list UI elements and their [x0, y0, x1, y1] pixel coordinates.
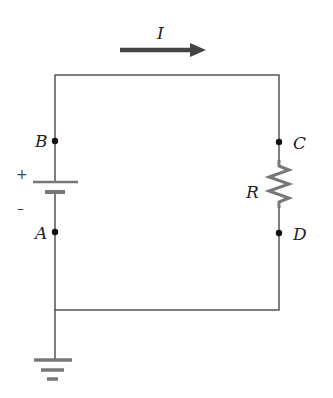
node-d-label: D [292, 224, 307, 244]
battery [33, 182, 78, 192]
resistor-label: R [245, 182, 259, 202]
node-a-dot [52, 229, 58, 235]
node-b-dot [52, 138, 58, 144]
node-d-dot [276, 230, 282, 236]
node-c-label: C [293, 133, 306, 153]
battery-positive-sign: + [16, 166, 28, 182]
current-arrow [120, 43, 206, 57]
node-b-label: B [34, 131, 48, 151]
node-a-label: A [33, 223, 47, 243]
wires [54, 75, 279, 360]
resistor [269, 160, 289, 208]
current-label: I [156, 23, 164, 43]
ground-icon [34, 360, 72, 379]
battery-negative-sign: – [17, 200, 24, 216]
circuit-diagram: I + – R B A C D [0, 0, 333, 398]
node-c-dot [276, 139, 282, 145]
